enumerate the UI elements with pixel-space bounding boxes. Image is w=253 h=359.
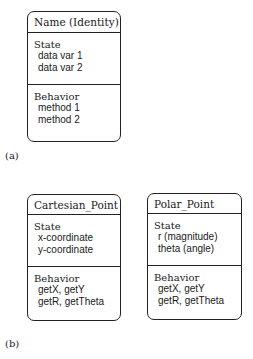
class-name-header: Polar_Point bbox=[148, 194, 241, 214]
class-name: Polar_Point bbox=[154, 198, 214, 210]
class-name: Cartesian_Point bbox=[34, 199, 118, 211]
state-item: y-coordinate bbox=[34, 244, 120, 256]
state-title: State bbox=[34, 221, 120, 232]
class-box-polar-point: Polar_Point State r (magnitude) theta (a… bbox=[147, 193, 242, 320]
behavior-section: Behavior getX, getY getR, getTheta bbox=[28, 267, 120, 307]
state-title: State bbox=[34, 39, 120, 50]
behavior-item: getX, getY bbox=[34, 284, 120, 296]
state-item: r (magnitude) bbox=[154, 231, 241, 243]
class-name-header: Name (Identity) bbox=[28, 12, 120, 33]
state-section: State x-coordinate y-coordinate bbox=[28, 215, 120, 267]
state-item: data var 1 bbox=[34, 50, 120, 62]
behavior-title: Behavior bbox=[34, 91, 120, 102]
behavior-title: Behavior bbox=[34, 273, 120, 284]
behavior-section: Behavior getX, getY getR, getTheta bbox=[148, 266, 241, 306]
class-name: Name (Identity) bbox=[34, 16, 119, 28]
state-item: data var 2 bbox=[34, 62, 120, 74]
figure-label-b: (b) bbox=[5, 338, 19, 349]
behavior-section: Behavior method 1 method 2 bbox=[28, 85, 120, 125]
state-section: State data var 1 data var 2 bbox=[28, 33, 120, 85]
state-item: theta (angle) bbox=[154, 243, 241, 255]
behavior-title: Behavior bbox=[154, 272, 241, 283]
class-name-header: Cartesian_Point bbox=[28, 195, 120, 215]
behavior-item: method 1 bbox=[34, 102, 120, 114]
behavior-item: getR, getTheta bbox=[154, 295, 241, 307]
behavior-item: getR, getTheta bbox=[34, 296, 120, 308]
behavior-item: method 2 bbox=[34, 114, 120, 126]
state-title: State bbox=[154, 220, 241, 231]
state-item: x-coordinate bbox=[34, 232, 120, 244]
figure-label-a: (a) bbox=[5, 150, 19, 161]
behavior-item: getX, getY bbox=[154, 283, 241, 295]
class-box-generic: Name (Identity) State data var 1 data va… bbox=[27, 11, 121, 142]
class-box-cartesian-point: Cartesian_Point State x-coordinate y-coo… bbox=[27, 194, 121, 321]
state-section: State r (magnitude) theta (angle) bbox=[148, 214, 241, 266]
